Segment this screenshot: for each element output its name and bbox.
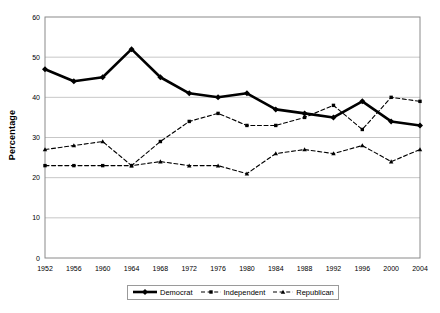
legend-item-independent: Independent	[200, 287, 266, 299]
chart-legend: DemocratIndependentRepublican	[127, 285, 339, 300]
series-independent	[43, 96, 421, 168]
line-chart: Percentage 0102030405060 195219561960196…	[0, 0, 440, 313]
legend-item-label: Democrat	[160, 289, 193, 297]
legend-item-label: Independent	[224, 289, 266, 297]
gridlines	[45, 57, 420, 218]
plot-area	[0, 0, 440, 313]
data-series-group	[42, 46, 423, 175]
dashed-square-key	[200, 287, 222, 299]
dashed-triangle-key	[272, 287, 294, 299]
dashed-triangle-key	[272, 287, 294, 297]
solid-diamond-key	[132, 287, 158, 297]
legend-item-democrat: Democrat	[132, 287, 193, 299]
legend-item-label: Republican	[296, 289, 334, 297]
legend-item-republican: Republican	[272, 287, 334, 299]
series-democrat	[42, 46, 423, 128]
dashed-square-key	[200, 287, 222, 297]
series-republican	[43, 139, 422, 175]
solid-diamond-key	[132, 287, 158, 299]
